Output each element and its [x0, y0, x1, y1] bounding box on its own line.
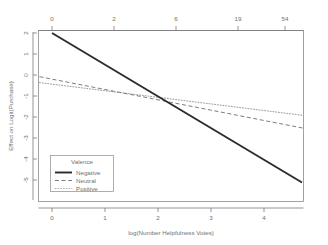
legend-label-positive: Positive — [76, 185, 98, 192]
top-tick-label-19: 19 — [235, 15, 242, 22]
y-tick-label-2: 2 — [22, 31, 29, 35]
bottom-tick-label-0: 0 — [50, 214, 54, 221]
y-tick-label-minus-3: -3 — [22, 135, 29, 141]
y-tick-label-minus-1: -1 — [22, 93, 29, 99]
line-chart: 0 2 6 19 54 0 1 2 3 4 log(Number Helpful… — [0, 0, 328, 245]
bottom-tick-label-1: 1 — [103, 214, 107, 221]
bottom-tick-label-4: 4 — [262, 214, 266, 221]
chart-legend: Valence Negative Neutral Positive — [51, 156, 114, 193]
top-tick-label-54: 54 — [282, 15, 289, 22]
bottom-axis: 0 1 2 3 4 log(Number Helpfulness Votes) — [39, 208, 304, 236]
bottom-tick-label-2: 2 — [156, 214, 160, 221]
top-axis: 0 2 6 19 54 — [39, 15, 304, 31]
legend-title: Valence — [71, 158, 93, 165]
y-tick-label-0: 0 — [22, 73, 29, 77]
y-axis: 2 1 0 -1 -2 -3 -4 -5 Effect on Logit(Pur… — [7, 31, 37, 200]
x-axis-title: log(Number Helpfulness Votes) — [128, 229, 214, 236]
top-tick-label-2: 2 — [112, 15, 116, 22]
top-tick-label-0: 0 — [50, 15, 54, 22]
bottom-tick-label-3: 3 — [209, 214, 213, 221]
series-line-positive — [40, 83, 303, 116]
legend-label-neutral: Neutral — [76, 177, 96, 184]
y-tick-label-minus-4: -4 — [22, 156, 29, 162]
y-tick-label-minus-2: -2 — [22, 114, 29, 120]
y-tick-label-minus-5: -5 — [22, 177, 29, 183]
chart-figure: 0 2 6 19 54 0 1 2 3 4 log(Number Helpful… — [0, 0, 328, 245]
top-tick-label-6: 6 — [174, 15, 178, 22]
y-tick-label-1: 1 — [22, 52, 29, 56]
y-axis-title: Effect on Logit(Purchase) — [7, 81, 14, 151]
legend-label-negative: Negative — [76, 169, 101, 176]
series-line-neutral — [40, 77, 303, 128]
